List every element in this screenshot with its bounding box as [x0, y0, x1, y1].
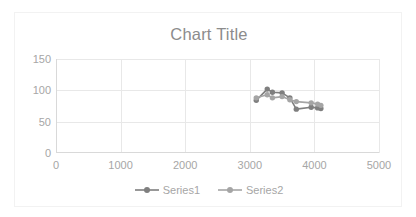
plot-area[interactable] [56, 59, 379, 153]
x-axis-tick-label: 5000 [354, 160, 404, 171]
data-point-marker[interactable] [279, 94, 284, 99]
y-axis-tick-label: 100 [17, 85, 51, 96]
data-point-marker[interactable] [308, 100, 313, 105]
data-point-marker[interactable] [294, 106, 299, 111]
legend-label: Series1 [163, 184, 200, 196]
y-axis-tick-label: 150 [17, 54, 51, 65]
x-axis-tick-label: 0 [31, 160, 81, 171]
x-axis-tick-label: 1000 [96, 160, 146, 171]
y-axis-tick-label: 0 [17, 148, 51, 159]
legend-marker-icon [135, 185, 159, 195]
data-point-marker[interactable] [318, 103, 323, 108]
data-point-marker[interactable] [254, 95, 259, 100]
data-series-layer [56, 59, 379, 153]
data-point-marker[interactable] [287, 97, 292, 102]
data-point-marker[interactable] [294, 99, 299, 104]
data-point-marker[interactable] [265, 92, 270, 97]
legend-item[interactable]: Series2 [218, 184, 283, 196]
data-point-marker[interactable] [265, 86, 270, 91]
legend-marker-icon [218, 185, 242, 195]
gridline-vertical [379, 59, 380, 153]
chart-legend[interactable]: Series1Series2 [15, 184, 403, 196]
chart-title[interactable]: Chart Title [15, 25, 403, 44]
data-point-marker[interactable] [270, 90, 275, 95]
legend-item[interactable]: Series1 [135, 184, 200, 196]
x-axis-tick-label: 3000 [225, 160, 275, 171]
chart-container[interactable]: Chart Title 050100150 010002000300040005… [14, 12, 402, 207]
data-point-marker[interactable] [270, 95, 275, 100]
x-axis-tick-label: 2000 [160, 160, 210, 171]
legend-label: Series2 [246, 184, 283, 196]
y-axis-tick-label: 50 [17, 117, 51, 128]
x-axis-tick-label: 4000 [289, 160, 339, 171]
